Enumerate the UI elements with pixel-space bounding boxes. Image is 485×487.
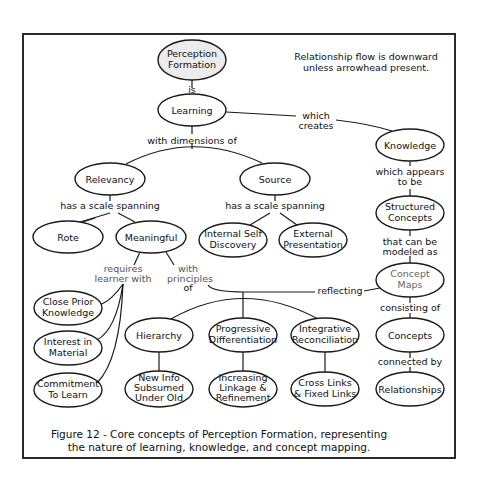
node-label: Close Prior (43, 296, 94, 307)
node-label: Rote (57, 232, 79, 243)
node-label: & Fixed Links (294, 388, 357, 399)
link-label-with-principles: of (183, 282, 193, 293)
node-label: Relevancy (86, 174, 135, 185)
node-label: Meaningful (125, 232, 178, 243)
node-label: Learning (171, 105, 212, 116)
node-label: Material (49, 347, 88, 358)
node-label: Concepts (388, 212, 432, 223)
node-internal-self-discovery: Internal Self Discovery (199, 223, 267, 257)
edge-scale-rote2 (80, 213, 110, 222)
flow-note: unless arrowhead present. (303, 62, 429, 73)
node-perception-formation: Perception Formation (158, 40, 226, 80)
edge-meaningful-principles (166, 252, 174, 265)
node-label: Discovery (210, 239, 257, 250)
link-label-requires: learner with (95, 273, 152, 284)
link-label-with-dimensions-of: with dimensions of (147, 135, 237, 146)
edge-scale-external (280, 213, 297, 225)
node-label: Differentiation (209, 334, 277, 345)
node-new-info: New Info Subsumed Under Old (125, 371, 193, 407)
node-rote: Rote (33, 221, 103, 253)
node-label: Hierarchy (136, 330, 182, 341)
node-label: Source (259, 174, 292, 185)
node-label: External (293, 228, 332, 239)
node-label: Concepts (388, 330, 432, 341)
edge-creates-knowledge (336, 120, 392, 131)
node-label: Formation (168, 59, 216, 70)
node-label: Concept (390, 268, 430, 279)
node-label: Under Old (135, 392, 183, 403)
node-relevancy: Relevancy (75, 163, 145, 195)
node-label: Reconciliation (292, 334, 358, 345)
node-concept-maps: Concept Maps (376, 263, 444, 297)
node-progressive-differentiation: Progressive Differentiation (209, 318, 277, 352)
node-learning: Learning (158, 94, 226, 126)
link-label-has-scale-spanning: has a scale spanning (225, 200, 325, 211)
node-relationships: Relationships (376, 372, 444, 406)
figure-caption: the nature of learning, knowledge, and c… (68, 441, 371, 453)
node-label: Structured (385, 201, 435, 212)
node-interest-in-material: Interest in Material (34, 331, 102, 365)
node-source: Source (240, 163, 310, 195)
node-commitment-to-learn: Commitment To Learn (34, 373, 102, 407)
node-label: Interest in (44, 336, 92, 347)
edge-dims-arc (126, 147, 262, 164)
node-structured-concepts: Structured Concepts (376, 196, 444, 230)
figure-caption: Figure 12 - Core concepts of Perception … (51, 428, 387, 440)
node-label: Internal Self (204, 228, 262, 239)
link-label-connected-by: connected by (378, 356, 443, 367)
edge-principles-arc (171, 299, 318, 320)
node-integrative-reconciliation: Integrative Reconciliation (291, 318, 359, 352)
link-label-has-scale-spanning: has a scale spanning (60, 200, 160, 211)
node-increasing-linkage: Increasing Linkage & Refinement (209, 371, 277, 407)
node-knowledge: Knowledge (376, 129, 444, 161)
link-label-which-appears: to be (398, 176, 423, 187)
edge-reflecting-maps (364, 288, 380, 291)
edge-scale-meaningful (118, 213, 135, 222)
node-cross-links: Cross Links & Fixed Links (291, 372, 359, 406)
node-label: Maps (398, 279, 423, 290)
node-external-presentation: External Presentation (279, 223, 347, 257)
node-label: To Learn (47, 389, 88, 400)
node-label: Integrative (299, 323, 351, 334)
link-label-consisting-of: consisting of (380, 302, 441, 313)
link-label-that-can-be: modeled as (382, 246, 437, 257)
concept-map: Perception Formation Learning Knowledge … (0, 0, 485, 487)
node-label: Cross Links (298, 377, 352, 388)
edge-principles-reflecting (208, 285, 315, 292)
link-label-is: is (188, 84, 196, 95)
edge-learning-which (226, 112, 296, 116)
node-label: Knowledge (384, 140, 436, 151)
node-label: Progressive (216, 323, 271, 334)
node-close-prior-knowledge: Close Prior Knowledge (34, 291, 102, 325)
link-label-which-creates: creates (298, 120, 333, 131)
node-label: Commitment (37, 378, 99, 389)
node-concepts: Concepts (376, 318, 444, 352)
node-hierarchy: Hierarchy (125, 318, 193, 352)
node-label: Refinement (216, 392, 271, 403)
flow-note: Relationship flow is downward (294, 51, 438, 62)
node-label: Perception (167, 48, 217, 59)
node-meaningful: Meaningful (116, 221, 186, 253)
node-label: Knowledge (42, 307, 94, 318)
node-label: Relationships (378, 384, 441, 395)
edge-scale-internal (250, 213, 270, 225)
node-label: Presentation (283, 239, 343, 250)
link-label-reflecting: reflecting (317, 285, 362, 296)
